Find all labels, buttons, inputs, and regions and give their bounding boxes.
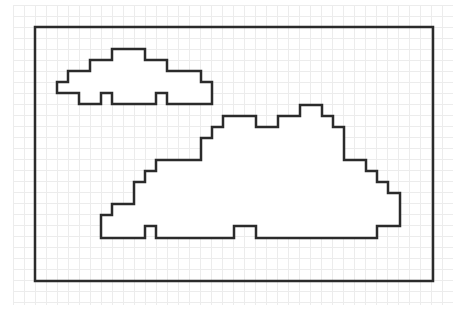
large-cloud-outline — [101, 105, 400, 238]
small-cloud-outline — [57, 49, 212, 104]
diagram-canvas — [0, 0, 463, 314]
diagram-svg — [0, 0, 463, 314]
